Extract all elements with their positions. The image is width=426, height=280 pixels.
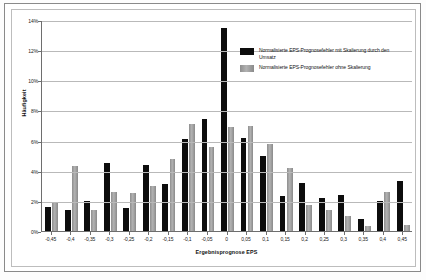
gridline <box>42 21 412 22</box>
x-axis-tick-mark <box>187 232 188 235</box>
bar <box>260 156 266 231</box>
x-axis-tick-label: -0,1 <box>183 236 191 242</box>
bar <box>202 119 208 231</box>
gridline <box>42 142 412 143</box>
x-axis-tick-mark <box>383 232 384 235</box>
y-axis-tick-label: 12% <box>28 48 38 54</box>
x-axis-tick-label: 0,15 <box>280 236 289 242</box>
legend-label: Normalisierte EPS-Prognosefehler mit Ska… <box>259 47 406 60</box>
bar <box>123 208 129 231</box>
y-axis-tick-label: 10% <box>28 78 38 84</box>
x-axis-tick-label: -0,4 <box>66 236 74 242</box>
x-axis-tick-mark <box>344 232 345 235</box>
x-axis-tick-label: -0,25 <box>123 236 134 242</box>
gridline <box>42 111 412 112</box>
bar <box>104 163 110 231</box>
x-axis-tick-mark <box>109 232 110 235</box>
x-axis-tick-mark <box>70 232 71 235</box>
bar <box>170 159 176 231</box>
bar <box>65 210 71 231</box>
bar <box>143 165 149 231</box>
gridline <box>42 81 412 82</box>
x-axis-tick-mark <box>402 232 403 235</box>
bar <box>72 166 78 231</box>
x-axis-tick-label: 0,35 <box>359 236 368 242</box>
bar <box>162 184 168 231</box>
x-axis-tick-label: 0,45 <box>398 236 407 242</box>
x-axis-tick-label: 0,25 <box>319 236 328 242</box>
bar <box>91 210 97 231</box>
x-axis-tick-mark <box>129 232 130 235</box>
bar <box>228 127 234 231</box>
x-axis-tick-label: 0,1 <box>262 236 269 242</box>
x-axis-tick-mark <box>324 232 325 235</box>
x-axis-tick-label: 0,2 <box>301 236 308 242</box>
x-axis-tick-mark <box>266 232 267 235</box>
bar <box>267 144 273 231</box>
y-axis-tick-label: 8% <box>31 108 38 114</box>
y-axis-tick-label: 0% <box>31 229 38 235</box>
legend-swatch <box>240 48 254 55</box>
x-axis-tick-label: 0 <box>225 236 228 242</box>
legend-item: Normalisierte EPS-Prognosefehler ohne Sk… <box>240 64 406 72</box>
x-axis-tick-label: -0,15 <box>162 236 173 242</box>
bar <box>306 205 312 231</box>
x-axis-tick-mark <box>90 232 91 235</box>
bar <box>241 138 247 231</box>
y-axis-title: Häufigkeit <box>21 73 27 133</box>
y-axis-tick-label: 4% <box>31 169 38 175</box>
x-axis-tick-label: -0,05 <box>202 236 213 242</box>
bar <box>130 193 136 231</box>
gridline <box>42 172 412 173</box>
bar <box>52 202 58 231</box>
x-axis-title: Ergebnisprognose EPS <box>41 249 412 255</box>
x-axis-tick-mark <box>148 232 149 235</box>
x-axis-tick-label: 0,05 <box>241 236 250 242</box>
x-axis-tick-label: -0,2 <box>144 236 152 242</box>
x-axis-tick-mark <box>363 232 364 235</box>
bar <box>384 192 390 231</box>
x-axis-tick-label: 0,4 <box>379 236 386 242</box>
bar <box>404 225 410 231</box>
bar <box>397 181 403 231</box>
x-axis-tick-mark <box>207 232 208 235</box>
x-axis-tick-mark <box>246 232 247 235</box>
bar <box>377 201 383 231</box>
bar <box>299 183 305 231</box>
y-axis-tick-label: 2% <box>31 199 38 205</box>
y-axis-tick-label: 14% <box>28 18 38 24</box>
chart-figure: 0%2%4%6%8%10%12%14% Häufigkeit -0,45-0,4… <box>0 0 426 280</box>
bar <box>45 207 51 231</box>
x-axis-tick-mark <box>285 232 286 235</box>
bar <box>209 147 215 231</box>
bar <box>345 216 351 231</box>
bar <box>326 210 332 231</box>
x-axis-tick-label: -0,35 <box>84 236 95 242</box>
bar <box>287 168 293 231</box>
bar <box>111 192 117 231</box>
legend-swatch <box>240 65 254 72</box>
x-axis-tick-label: -0,45 <box>45 236 56 242</box>
bar <box>338 195 344 231</box>
bar <box>182 139 188 231</box>
bar <box>221 28 227 231</box>
bar <box>358 219 364 231</box>
bar <box>365 226 371 231</box>
x-axis-tick-mark <box>227 232 228 235</box>
y-axis-tick-label: 6% <box>31 139 38 145</box>
gridline <box>42 202 412 203</box>
x-axis-tick-mark <box>51 232 52 235</box>
bar <box>84 201 90 231</box>
chart-legend: Normalisierte EPS-Prognosefehler mit Ska… <box>240 47 406 76</box>
bar <box>150 186 156 231</box>
legend-item: Normalisierte EPS-Prognosefehler mit Ska… <box>240 47 406 60</box>
x-axis-tick-label: 0,3 <box>340 236 347 242</box>
legend-label: Normalisierte EPS-Prognosefehler ohne Sk… <box>259 64 371 71</box>
bar <box>189 124 195 231</box>
x-axis: -0,45-0,4-0,35-0,3-0,25-0,2-0,15-0,1-0,0… <box>41 232 412 248</box>
x-axis-tick-label: -0,3 <box>105 236 113 242</box>
x-axis-tick-mark <box>305 232 306 235</box>
x-axis-tick-mark <box>168 232 169 235</box>
